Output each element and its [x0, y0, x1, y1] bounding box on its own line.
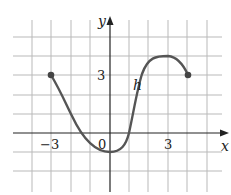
origin-label: 0: [98, 137, 106, 152]
grid: [13, 20, 222, 192]
right-endpoint-dot: [185, 72, 192, 79]
left-endpoint-dot: [48, 72, 55, 79]
x-axis-label: x: [221, 138, 229, 154]
curve-label-h: h: [133, 77, 142, 93]
x-tick-3: 3: [164, 137, 172, 152]
y-axis-label: y: [97, 13, 107, 29]
y-tick-3: 3: [97, 68, 105, 83]
x-tick-neg3: −3: [40, 137, 59, 152]
graph: y x 3 −3 0 3 h: [0, 0, 231, 195]
y-axis-arrow-icon: [107, 16, 114, 25]
x-axis-arrow-icon: [220, 130, 229, 137]
